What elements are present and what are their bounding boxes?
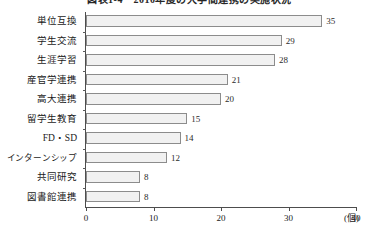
category-label: 共同研究 [0,169,77,186]
bar [86,15,322,27]
category-label: 学生交流 [0,33,77,50]
category-label: 高大連携 [0,91,77,108]
bar-value-label: 8 [144,189,149,206]
bar [86,113,187,125]
x-axis-tick [86,207,87,211]
category-label: 図書館連携 [0,189,77,206]
bar-value-label: 14 [185,130,194,147]
bar [86,171,140,183]
table-row: インターンシップ12 [86,149,356,168]
category-label: インターンシップ [0,150,77,167]
x-axis-unit-label: (個) [344,212,359,224]
bar-value-label: 15 [191,111,200,128]
x-axis-tick [154,207,155,211]
category-label: 留学生教育 [0,111,77,128]
bar-value-label: 28 [279,52,288,69]
bar-value-label: 20 [225,91,234,108]
x-axis-tick-label: 20 [201,212,241,224]
bar-value-label: 29 [286,33,295,50]
category-label: FD・SD [0,130,77,147]
chart-title: 図表1-4 2010年度の大学間連携の実施状況 [0,0,379,6]
table-row: 産官学連携21 [86,71,356,90]
x-axis-tick [221,207,222,211]
bar [86,74,228,86]
x-axis-tick-label: 10 [134,212,174,224]
category-label: 産官学連携 [0,72,77,89]
category-label: 単位互換 [0,13,77,30]
table-row: 生涯学習28 [86,51,356,70]
category-label: 生涯学習 [0,52,77,69]
bar-value-label: 8 [144,169,149,186]
bar-value-label: 21 [232,72,241,89]
plot-area: 単位互換35学生交流29生涯学習28産官学連携21高大連携20留学生教育15FD… [86,12,356,207]
table-row: 高大連携20 [86,90,356,109]
bar [86,132,181,144]
bar-chart: 図表1-4 2010年度の大学間連携の実施状況 単位互換35学生交流29生涯学習… [0,0,379,229]
bar [86,35,282,47]
x-axis-tick [356,207,357,211]
bar-value-label: 35 [326,13,335,30]
bar [86,191,140,203]
x-axis-tick-label: 30 [269,212,309,224]
x-axis-tick [289,207,290,211]
table-row: 図書館連携8 [86,188,356,207]
table-row: 単位互換35 [86,12,356,31]
x-axis-tick-label: 0 [66,212,106,224]
bar [86,54,275,66]
table-row: 学生交流29 [86,32,356,51]
table-row: FD・SD14 [86,129,356,148]
bar-value-label: 12 [171,150,180,167]
bar [86,152,167,164]
table-row: 共同研究8 [86,168,356,187]
bar [86,93,221,105]
table-row: 留学生教育15 [86,110,356,129]
